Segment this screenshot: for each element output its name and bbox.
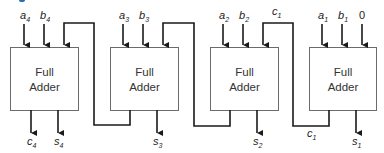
block-label-full: Full — [235, 66, 254, 78]
label-b2: b2 — [239, 9, 249, 23]
label-a2: a2 — [219, 9, 229, 23]
block-label-adder: Adder — [229, 81, 260, 93]
full-adder-2: Full Adder — [211, 48, 279, 111]
label-s2: s2 — [253, 135, 263, 149]
label-a4: a4 — [20, 9, 30, 23]
carry-wires — [64, 23, 329, 126]
label-b4: b4 — [40, 9, 50, 23]
full-adder-4: Full Adder — [11, 48, 79, 111]
label-a1: a1 — [318, 9, 328, 23]
label-zero: 0 — [359, 9, 365, 21]
label-c1-bottom: c1 — [307, 127, 317, 141]
figure-marker-fragment — [19, 0, 25, 2]
label-c4: c4 — [27, 135, 37, 149]
block-label-adder: Adder — [328, 81, 359, 93]
block-label-adder: Adder — [29, 81, 60, 93]
label-c1-top: c1 — [272, 5, 282, 19]
label-s3: s3 — [153, 135, 163, 149]
label-s4: s4 — [54, 135, 64, 149]
block-label-adder: Adder — [129, 81, 160, 93]
label-s1: s1 — [352, 135, 362, 149]
full-adder-3: Full Adder — [111, 48, 179, 111]
label-b3: b3 — [139, 9, 149, 23]
block-label-full: Full — [35, 66, 54, 78]
block-label-full: Full — [334, 66, 353, 78]
ripple-carry-adder-diagram: Full Adder Full Adder Full Adder Full Ad… — [0, 0, 384, 153]
label-b1: b1 — [338, 9, 348, 23]
label-a3: a3 — [119, 9, 129, 23]
input-arrows — [24, 24, 362, 45]
block-label-full: Full — [135, 66, 154, 78]
full-adder-1: Full Adder — [310, 48, 377, 111]
